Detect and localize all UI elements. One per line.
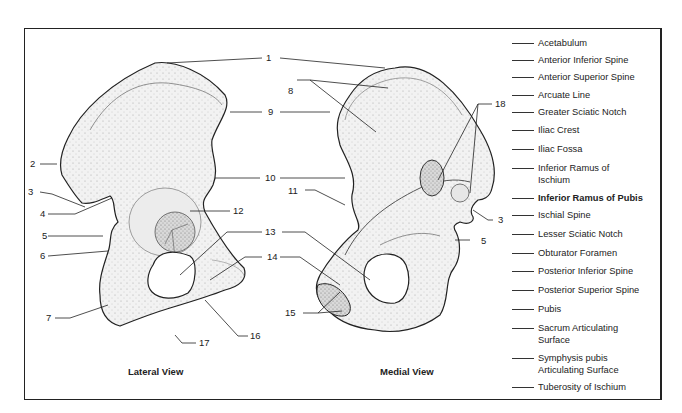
callout-10: 10 [265, 173, 276, 183]
legend-item[interactable]: Pubis [512, 303, 561, 315]
legend-item[interactable]: Posterior Inferior Spine [512, 265, 633, 277]
answer-blank[interactable] [512, 168, 534, 169]
legend-item[interactable]: Posterior Superior Spine [512, 284, 639, 296]
legend-item[interactable]: Symphysis pubis Articulating Surface [512, 352, 619, 376]
legend-item[interactable]: Anterior Inferior Spine [512, 54, 628, 66]
legend-item[interactable]: Arcuate Line [512, 89, 590, 101]
legend-item[interactable]: Anterior Superior Spine [512, 71, 635, 83]
answer-blank[interactable] [512, 387, 534, 388]
callout-4: 4 [40, 209, 45, 219]
legend-item[interactable]: Obturator Foramen [512, 247, 617, 259]
legend-item[interactable]: Iliac Crest [512, 124, 579, 136]
answer-blank[interactable] [512, 234, 534, 235]
answer-blank[interactable] [512, 253, 534, 254]
legend-item[interactable]: Inferior Ramus of Ischium [512, 162, 609, 186]
answer-blank[interactable] [512, 43, 534, 44]
lateral-view-label: Lateral View [128, 366, 183, 377]
callout-18: 18 [495, 99, 506, 109]
callout-3-medial: 3 [498, 215, 503, 225]
callout-17: 17 [199, 338, 210, 348]
callout-16: 16 [250, 331, 261, 341]
answer-blank[interactable] [512, 112, 534, 113]
callout-9: 9 [268, 107, 273, 117]
answer-blank[interactable] [512, 271, 534, 272]
legend-item[interactable]: Greater Sciatic Notch [512, 106, 626, 118]
callout-12: 12 [233, 206, 244, 216]
callout-5-medial: 5 [481, 236, 486, 246]
answer-blank[interactable] [512, 130, 534, 131]
answer-blank[interactable] [512, 215, 534, 216]
callout-11: 11 [288, 186, 298, 196]
answer-blank[interactable] [512, 95, 534, 96]
legend-item[interactable]: Acetabulum [512, 37, 587, 49]
lateral-view-bone [60, 63, 245, 326]
answer-blank[interactable] [512, 60, 534, 61]
legend-item[interactable]: Lesser Sciatic Notch [512, 228, 623, 240]
legend-item[interactable]: Ischial Spine [512, 209, 591, 221]
answer-blank[interactable] [512, 198, 534, 199]
answer-blank[interactable] [512, 290, 534, 291]
answer-blank[interactable] [512, 309, 534, 310]
answer-blank[interactable] [512, 358, 534, 359]
legend-item[interactable]: Tuberosity of Ischium [512, 381, 626, 393]
legend-item[interactable]: Iliac Fossa [512, 143, 582, 155]
callout-7: 7 [46, 313, 51, 323]
callout-3-lateral: 3 [28, 187, 33, 197]
answer-blank[interactable] [512, 77, 534, 78]
legend-item[interactable]: Sacrum Articulating Surface [512, 322, 618, 346]
callout-13: 13 [265, 227, 276, 237]
callout-14: 14 [267, 252, 278, 262]
answer-blank[interactable] [512, 149, 534, 150]
callout-1: 1 [266, 53, 271, 63]
legend-item[interactable]: Inferior Ramus of Pubis [512, 192, 643, 204]
medial-view-label: Medial View [380, 366, 434, 377]
callout-2: 2 [30, 159, 35, 169]
answer-blank[interactable] [512, 328, 534, 329]
callout-15: 15 [285, 308, 296, 318]
callout-5-lateral: 5 [42, 231, 47, 241]
callout-6: 6 [40, 251, 45, 261]
callout-8: 8 [288, 86, 293, 96]
